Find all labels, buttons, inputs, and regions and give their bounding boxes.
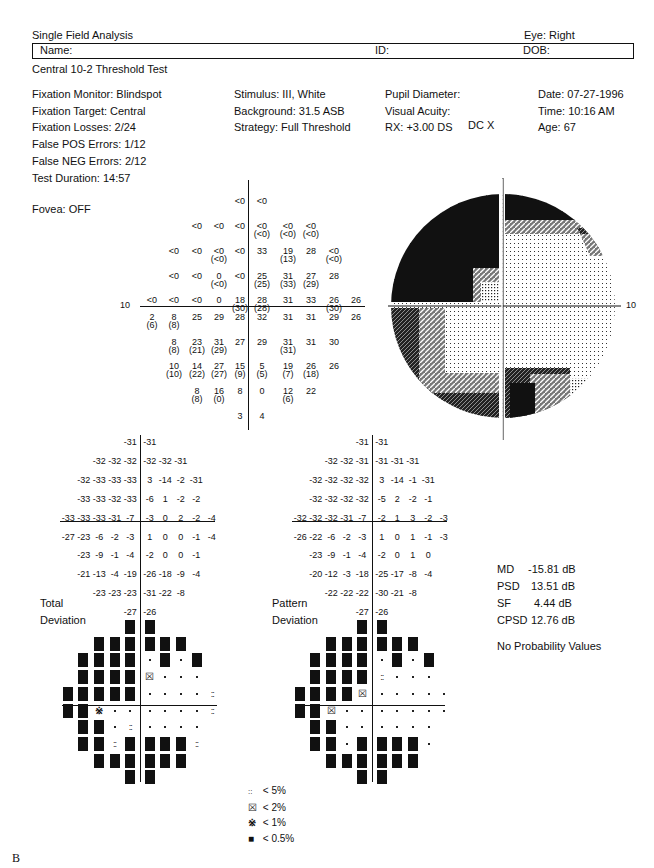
info-column-1: Fixation Monitor: Blindspot Fixation Tar… [32,86,162,186]
threshold-value: 26 [343,296,369,305]
p05-square-icon [408,637,418,651]
p05-square-icon [377,770,387,784]
p05-square-icon [326,637,336,651]
deviation-value: -26 [138,607,162,617]
normal-dot-icon [412,710,414,712]
p05-square-icon [357,653,367,667]
normal-dot-icon [381,659,383,661]
deviation-value: -31 [370,437,394,447]
psd-label: PSD [497,580,520,592]
normal-dot-icon [180,710,182,712]
hatch-icon: ☒ [248,800,260,816]
p05-square-icon [78,687,88,701]
p05-square-icon [310,670,320,684]
test-duration: Test Duration: 14:57 [32,170,162,187]
eye-label: Eye: Right [524,29,575,41]
p05-square-icon [310,720,320,734]
threshold-repeat-value: (29) [298,280,324,289]
p5-dots-icon: :: [208,707,216,715]
p05-square-icon [342,754,352,768]
p05-square-icon [392,637,402,651]
p05-square-icon [145,770,155,784]
normal-dot-icon [443,693,445,695]
p05-square-icon [125,687,135,701]
p05-square-icon [176,737,186,751]
p05-square-icon [110,754,120,768]
normal-dot-icon [114,710,116,712]
normal-dot-icon [381,693,383,695]
p05-square-icon [342,687,352,701]
legend-p5: :: < 5% [248,783,294,800]
normal-dot-icon [381,726,383,728]
sf-label: SF [497,597,511,609]
legend-p1: ※ < 1% [248,815,294,831]
false-neg: False NEG Errors: 2/12 [32,153,162,170]
p05-square-icon [357,670,367,684]
p05-square-icon [295,687,305,701]
normal-dot-icon [196,693,198,695]
report-title: Single Field Analysis [32,29,133,41]
dense-hatch-icon: ※ [248,815,260,831]
test-date: Date: 07-27-1996 [538,86,624,103]
p05-square-icon [125,670,135,684]
pattern-label-1: Pattern [272,597,307,609]
background: Background: 31.5 ASB [234,103,351,120]
threshold-repeat-value: (8) [161,321,187,330]
p05-square-icon [310,704,320,718]
p05-square-icon [357,770,367,784]
p05-square-icon [94,637,104,651]
p05-square-icon [125,637,135,651]
p2-hatch-icon: ☒ [357,689,367,699]
name-field: Name: [40,44,72,56]
probability-note: No Probability Values [497,640,601,652]
p05-square-icon [63,687,73,701]
normal-dot-icon [428,726,430,728]
info-column-4: Date: 07-27-1996 Time: 10:16 AM Age: 67 [538,86,624,136]
threshold-repeat-value: (<0) [298,230,324,239]
md-label: MD [497,563,514,575]
threshold-repeat-value: (31) [275,346,301,355]
fovea-status: Fovea: OFF [32,203,91,215]
normal-dot-icon [180,676,182,678]
fixation-target: Fixation Target: Central [32,103,162,120]
normal-dot-icon [346,726,348,728]
p05-square-icon [192,653,202,667]
p05-square-icon [408,737,418,751]
p05-square-icon [125,737,135,751]
normal-dot-icon [428,743,430,745]
normal-dot-icon [361,726,363,728]
normal-dot-icon [412,676,414,678]
p5-dots-icon: :: [126,723,134,731]
p05-square-icon [357,637,367,651]
pdp-vertical-axis [372,622,373,782]
p05-square-icon [392,653,402,667]
grayscale-axis-label: 10 [626,300,636,310]
deviation-value: 0 [416,550,440,560]
patient-age: Age: 67 [538,119,624,136]
threshold-repeat-value: (<0) [206,255,232,264]
p05-square-icon [63,704,73,718]
normal-dot-icon [196,710,198,712]
grayscale-map [385,178,645,440]
p05-square-icon [160,754,170,768]
p05-square-icon [110,670,120,684]
normal-dot-icon [164,710,166,712]
normal-dot-icon [428,710,430,712]
p5-dots-icon: :: [111,740,119,748]
normal-dot-icon [149,693,151,695]
p05-square-icon [160,653,170,667]
p05-square-icon [176,754,186,768]
normal-dot-icon [396,693,398,695]
p05-square-icon [326,670,336,684]
normal-dot-icon [396,726,398,728]
p05-square-icon [377,620,387,634]
p05-square-icon [78,737,88,751]
rx: RX: +3.00 DS [385,119,460,136]
cpsd-label: CPSD [497,614,528,626]
sf-value: 4.44 dB [534,597,572,609]
normal-dot-icon [114,726,116,728]
normal-dot-icon [164,726,166,728]
deviation-value: -8 [169,588,193,598]
threshold-repeat-value: (13) [275,255,301,264]
patient-box: Name: ID: DOB: [32,43,634,59]
